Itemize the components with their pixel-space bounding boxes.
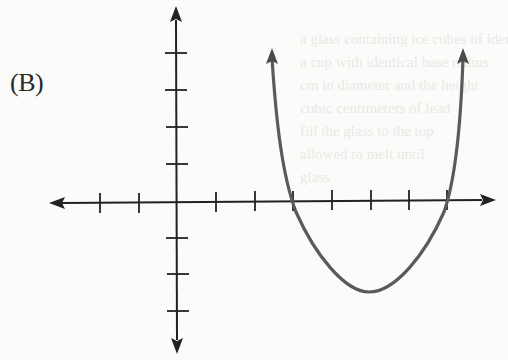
parabola-graph — [0, 0, 508, 360]
y-axis-up-arrow-icon — [170, 6, 182, 22]
y-axis-down-arrow-icon — [171, 338, 183, 354]
x-axis-right-arrow-icon — [480, 194, 496, 206]
parabola-curve — [266, 48, 469, 292]
x-axis — [62, 200, 482, 203]
figure-page: a glass containing ice cubes of identica… — [0, 0, 508, 360]
y-axis — [176, 20, 177, 340]
